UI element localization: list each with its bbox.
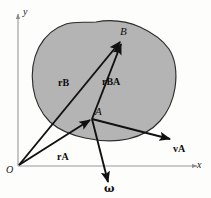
y-axis-label: y xyxy=(23,7,27,17)
point-a-label: A xyxy=(95,106,102,117)
x-axis-label: x xyxy=(197,160,201,170)
vector-omega-label: ω xyxy=(104,183,114,194)
origin-label: O xyxy=(6,165,13,175)
point-b-label: B xyxy=(120,26,127,37)
vector-r-ba-subscript: BA xyxy=(106,76,120,87)
vector-r-ba-label: rBA xyxy=(102,72,120,88)
vector-r-b-subscript: B xyxy=(62,77,69,88)
vector-diagram-figure: y x O B A rB rBA rA vA ω xyxy=(0,0,211,198)
vector-v-a-label: vA xyxy=(173,139,185,155)
vector-v-a-subscript: A xyxy=(178,143,185,154)
vector-r-a-arrow xyxy=(19,120,90,165)
vector-r-a-label: rA xyxy=(57,147,69,163)
vector-r-a-subscript: A xyxy=(61,151,68,162)
vector-r-b-label: rB xyxy=(58,73,69,89)
diagram-canvas xyxy=(0,0,211,198)
